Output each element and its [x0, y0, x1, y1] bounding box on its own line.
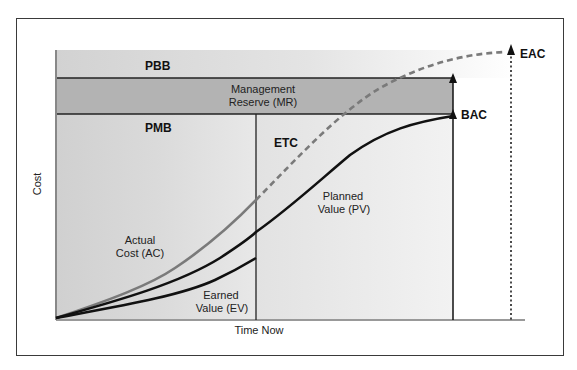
pbb-label: PBB [145, 60, 170, 73]
planned-value-label-line1: Planned [315, 190, 371, 203]
bac-label: BAC [461, 109, 487, 122]
eac-arrow-icon [507, 44, 515, 55]
time-now-label: Time Now [229, 324, 289, 337]
pmb-label: PMB [145, 122, 172, 135]
mr-label-line1: Management [218, 83, 308, 96]
eac-label: EAC [520, 48, 545, 61]
chart-canvas [0, 0, 577, 370]
pbb-region [56, 50, 516, 78]
etc-label: ETC [274, 137, 298, 150]
mr-label-line2: Reserve (MR) [218, 96, 308, 109]
cost-axis-label: Cost [31, 173, 43, 196]
earned-value-label-line1: Earned [196, 289, 246, 302]
planned-value-label-line2: Value (PV) [313, 203, 375, 216]
actual-cost-label-line2: Cost (AC) [112, 247, 168, 260]
actual-cost-label-line1: Actual [115, 234, 165, 247]
earned-value-label-line2: Value (EV) [191, 302, 253, 315]
